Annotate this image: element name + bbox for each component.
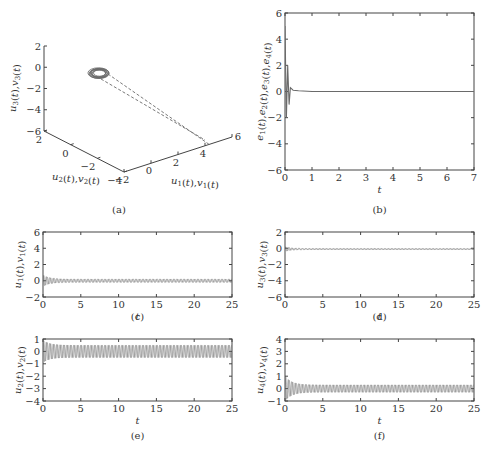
z-tick-label: 2 [35, 41, 41, 52]
x-tick-label: 25 [226, 403, 239, 414]
y-tick-label: 0 [34, 346, 40, 357]
y-tick-label: 6 [276, 8, 282, 19]
panel-e-u2-plot: 0510152025−4−3−2−101tu2(t),v2(t)(e) [12, 334, 238, 442]
panel-caption: (d) [372, 311, 386, 322]
data-trace [285, 247, 474, 251]
panel-a-3d-plot: −2024620−2−420−2−4−6u1(t),v1(t)u2(t),v2(… [7, 41, 241, 216]
panel-c-u1-plot: 0510152025−20246tu1(t),v1(t)(c) [12, 227, 238, 323]
x-tick-label: 15 [392, 403, 405, 414]
figure-canvas: −2024620−2−420−2−4−6u1(t),v1(t)u2(t),v2(… [0, 0, 484, 452]
y-tick-label: −2 [81, 161, 96, 172]
z-tick-label: 0 [35, 62, 41, 73]
panel-caption: (c) [131, 311, 145, 322]
x-tick-label: 5 [78, 403, 84, 414]
y-tick-label: 4 [34, 243, 40, 254]
x-tick-label: 10 [354, 403, 367, 414]
panel-f-u4-plot: 0510152025−101234tu4(t),v4(t)(f) [254, 334, 480, 442]
panel-d-u3-plot: 0510152025−6−4−202tu3(t),v3(t)(d) [254, 227, 480, 323]
y-tick-label: 0 [276, 243, 282, 254]
x-tick-label: 2 [336, 172, 342, 183]
y-tick-label: −4 [107, 175, 122, 186]
x-tick-label: 20 [430, 403, 443, 414]
data-trace [285, 377, 474, 399]
x-tick-label: 0 [282, 172, 288, 183]
y-tick-label: −6 [267, 292, 282, 303]
z-tick-label: −4 [26, 104, 41, 115]
y-axis-label: e1(t),e2(t),e3(t),e4(t) [254, 42, 273, 141]
x-tick-label: 0 [282, 299, 288, 310]
x-axis-label: t [377, 415, 382, 426]
y-tick-label: 0 [34, 275, 40, 286]
y-tick-label: −6 [267, 165, 282, 176]
z-tick-label: −6 [26, 126, 41, 137]
y-tick-label: −2 [25, 371, 40, 382]
axes-box [43, 232, 232, 297]
y-tick-label: −1 [25, 358, 40, 369]
data-trace [43, 341, 232, 362]
y-tick-label: 2 [34, 259, 40, 270]
panel-caption: (e) [131, 430, 145, 441]
x-tick-label: 0 [40, 403, 46, 414]
y-tick-label: 6 [34, 227, 40, 238]
x-tick-label: 15 [150, 299, 163, 310]
z-tick-label: −2 [26, 83, 41, 94]
x-tick-label: 4 [390, 172, 396, 183]
x-tick-label: 25 [468, 299, 481, 310]
x-tick-label: 10 [354, 299, 367, 310]
z-axis-label: u3(t),v3(t) [7, 64, 22, 112]
x-tick-label: 20 [188, 403, 201, 414]
x-tick-label: 6 [235, 131, 241, 142]
y-tick-label: −4 [267, 275, 282, 286]
y-tick-label: 2 [276, 358, 282, 369]
panel-caption: (f) [374, 430, 386, 441]
panel-b-error-plot: 01234567−6−4−20246te1(t),e2(t),e3(t),e4(… [254, 8, 477, 216]
x-tick-label: 25 [468, 403, 481, 414]
x-tick-label: 10 [112, 403, 125, 414]
x-tick-label: 0 [282, 403, 288, 414]
y-tick-label: −4 [267, 138, 282, 149]
x-tick-label: 7 [471, 172, 477, 183]
x-tick-label: 6 [444, 172, 450, 183]
y-tick-label: 2 [276, 227, 282, 238]
x-tick-label: 3 [363, 172, 369, 183]
y-tick-label: 2 [276, 60, 282, 71]
axes-box [285, 232, 474, 297]
y-tick-label: −2 [267, 259, 282, 270]
x-axis-label: u1(t),v1(t) [171, 175, 219, 190]
x-tick-label: 25 [226, 299, 239, 310]
y-tick-label: 0 [62, 148, 68, 159]
x-tick-label: 20 [430, 299, 443, 310]
y-tick-label: −3 [25, 383, 40, 394]
x-tick-label: 5 [320, 299, 326, 310]
y-axis-label: u1(t),v1(t) [12, 240, 27, 288]
y-tick-label: 0 [276, 86, 282, 97]
x-tick-label: 10 [112, 299, 125, 310]
y-axis-label: u2(t),v2(t) [52, 171, 100, 186]
x-tick-label: 5 [78, 299, 84, 310]
data-trace [43, 275, 232, 285]
data-trace [88, 68, 210, 145]
x-tick-label: 0 [40, 299, 46, 310]
y-tick-label: 4 [276, 334, 282, 345]
y-axis-label: u3(t),v3(t) [254, 240, 269, 288]
y-tick-label: 1 [34, 334, 40, 345]
y-tick-label: −4 [25, 396, 40, 407]
y-tick-label: 4 [276, 34, 282, 45]
y-tick-label: 1 [276, 371, 282, 382]
y-tick-label: 3 [276, 346, 282, 357]
x-tick-label: 0 [146, 165, 152, 176]
x-tick-label: 5 [320, 403, 326, 414]
y-tick-label: −2 [267, 112, 282, 123]
x-axis-label: t [135, 415, 140, 426]
x-tick-label: 1 [309, 172, 315, 183]
x-tick-label: 5 [417, 172, 423, 183]
y-tick-label: 0 [276, 383, 282, 394]
x-tick-label: 15 [392, 299, 405, 310]
data-trace [285, 26, 474, 118]
y-tick-label: −2 [25, 292, 40, 303]
y-axis-label: u2(t),v2(t) [12, 346, 27, 394]
panel-caption: (b) [372, 204, 386, 215]
x-tick-label: 15 [150, 403, 163, 414]
panel-caption: (a) [112, 204, 126, 215]
x-tick-label: 4 [200, 148, 206, 159]
